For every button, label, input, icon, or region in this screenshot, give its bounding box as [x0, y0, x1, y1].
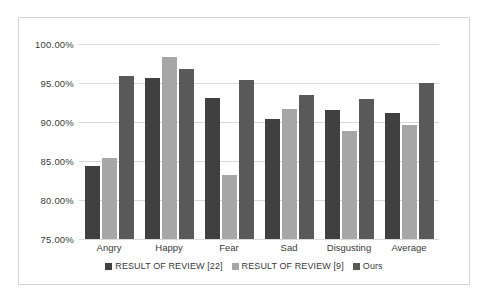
- y-axis-tick-label: 85.00%: [41, 156, 74, 167]
- x-axis: AngryHappyFearSadDisgustingAverage: [79, 242, 439, 258]
- bar: [325, 110, 340, 239]
- bar: [119, 76, 134, 239]
- bar: [419, 83, 434, 239]
- x-axis-tick-label: Fear: [219, 242, 239, 253]
- bar: [102, 158, 117, 239]
- bar-group: [139, 44, 199, 239]
- bar: [265, 119, 280, 239]
- bars-layer: [79, 44, 439, 239]
- y-axis-tick-label: 95.00%: [41, 78, 74, 89]
- plot-area: [79, 44, 439, 239]
- legend-swatch-icon: [353, 263, 360, 270]
- bar-group: [79, 44, 139, 239]
- bar: [162, 57, 177, 239]
- x-axis-tick-label: Sad: [281, 242, 298, 253]
- bar: [222, 175, 237, 239]
- legend-label: RESULT OF REVIEW [22]: [115, 261, 222, 271]
- x-axis-tick-label: Disgusting: [327, 242, 371, 253]
- bar: [359, 99, 374, 239]
- y-axis: 75.00%80.00%85.00%90.00%95.00%100.00%: [19, 44, 74, 239]
- legend-label: RESULT OF REVIEW [9]: [242, 261, 344, 271]
- bar-group: [379, 44, 439, 239]
- bar-group: [259, 44, 319, 239]
- chart-legend: RESULT OF REVIEW [22]RESULT OF REVIEW [9…: [19, 261, 469, 271]
- x-axis-tick-label: Happy: [155, 242, 182, 253]
- bar: [299, 95, 314, 239]
- bar-group: [199, 44, 259, 239]
- bar: [145, 78, 160, 239]
- bar: [179, 69, 194, 239]
- y-axis-tick-label: 80.00%: [41, 195, 74, 206]
- bar: [385, 113, 400, 239]
- y-axis-tick-label: 90.00%: [41, 117, 74, 128]
- bar: [85, 166, 100, 239]
- bar-group: [319, 44, 379, 239]
- bar: [342, 131, 357, 239]
- legend-swatch-icon: [232, 263, 239, 270]
- legend-item[interactable]: RESULT OF REVIEW [22]: [105, 261, 222, 271]
- chart-container: 75.00%80.00%85.00%90.00%95.00%100.00% An…: [18, 17, 470, 285]
- legend-label: Ours: [363, 261, 383, 271]
- bar: [205, 98, 220, 239]
- x-axis-tick-label: Average: [391, 242, 426, 253]
- legend-item[interactable]: RESULT OF REVIEW [9]: [232, 261, 344, 271]
- y-axis-tick-label: 75.00%: [41, 234, 74, 245]
- y-axis-tick-label: 100.00%: [35, 39, 74, 50]
- bar: [282, 109, 297, 239]
- legend-swatch-icon: [105, 263, 112, 270]
- gridline: [79, 239, 439, 240]
- bar: [402, 125, 417, 239]
- x-axis-tick-label: Angry: [97, 242, 122, 253]
- legend-item[interactable]: Ours: [353, 261, 383, 271]
- bar: [239, 80, 254, 239]
